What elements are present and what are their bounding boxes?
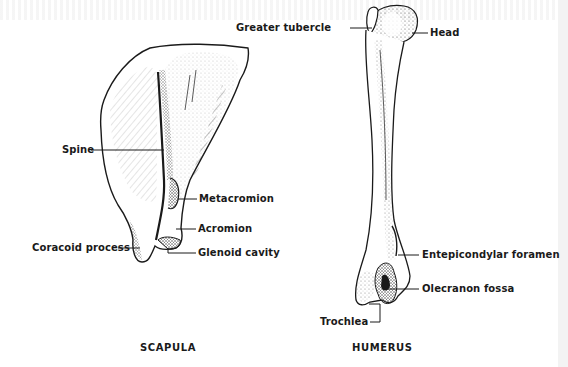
label-metacromion: Metacromion bbox=[199, 193, 274, 204]
label-trochlea: Trochlea bbox=[320, 316, 368, 327]
humerus-drawing bbox=[356, 6, 418, 305]
label-coracoid-process: Coracoid process bbox=[32, 242, 130, 253]
label-greater-tubercle: Greater tubercle bbox=[236, 22, 331, 33]
label-acromion: Acromion bbox=[198, 223, 252, 234]
label-entepicondylar-foramen: Entepicondylar foramen bbox=[422, 249, 560, 260]
label-glenoid-cavity: Glenoid cavity bbox=[198, 247, 280, 258]
label-head: Head bbox=[430, 27, 459, 38]
label-spine: Spine bbox=[62, 144, 94, 155]
caption-scapula: SCAPULA bbox=[140, 342, 196, 353]
label-olecranon-fossa: Olecranon fossa bbox=[422, 283, 514, 294]
caption-humerus: HUMERUS bbox=[352, 342, 413, 353]
bone-illustrations bbox=[0, 0, 568, 367]
